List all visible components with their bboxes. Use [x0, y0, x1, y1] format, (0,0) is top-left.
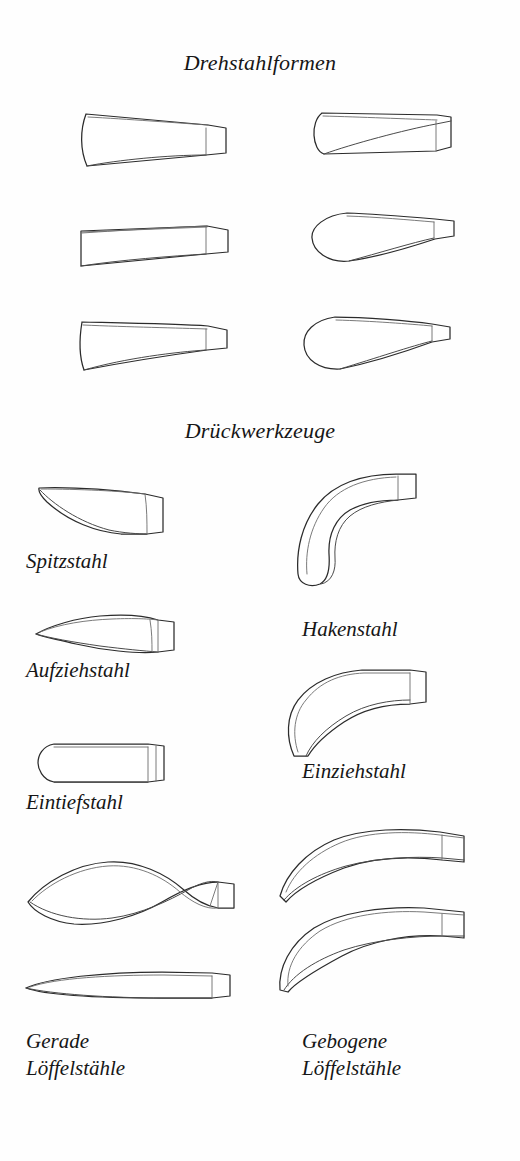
label-eintiefstahl: Eintiefstahl: [26, 789, 123, 816]
section-heading-drehstahlformen: Drehstahlformen: [0, 50, 520, 76]
section-heading-drueckwerkzeuge: Drückwerkzeuge: [0, 418, 520, 444]
figure-aufziehstahl-tool: [32, 608, 217, 660]
figure-eintiefstahl-tool: [36, 740, 196, 790]
figure-einziehstahl-tool: [280, 668, 465, 758]
figure-tapered-flat-tool-concave: [76, 312, 231, 374]
figure-spoon-tool-broad-nose: [300, 312, 455, 374]
label-aufziehstahl: Aufziehstahl: [26, 657, 130, 684]
label-hakenstahl: Hakenstahl: [302, 616, 398, 643]
figure-hakenstahl-tool: [288, 468, 448, 588]
illustration-plate: Drehstahlformen: [0, 0, 520, 1161]
figure-gerade-loeffelstahl-tool-lower: [22, 966, 247, 1008]
label-einziehstahl: Einziehstahl: [302, 758, 406, 785]
figure-gerade-loeffelstahl-tool-upper: [22, 856, 252, 930]
figure-tapered-flat-tool-curved-edge: [78, 108, 228, 170]
figure-tapered-flat-tool-straight: [76, 208, 231, 270]
figure-gebogene-loeffelstahl-tool-lower: [274, 906, 489, 996]
figure-spoon-tool-round-nose: [307, 205, 457, 267]
label-spitzstahl: Spitzstahl: [26, 548, 108, 575]
figure-gebogene-loeffelstahl-tool-upper: [272, 826, 487, 906]
figure-spitzstahl-tool: [35, 470, 245, 540]
label-gerade-loeffelstaehle: Gerade Löffelstähle: [26, 1028, 125, 1082]
figure-flat-tool-rounded-nose: [308, 110, 453, 160]
label-gebogene-loeffelstaehle: Gebogene Löffelstähle: [302, 1028, 401, 1082]
